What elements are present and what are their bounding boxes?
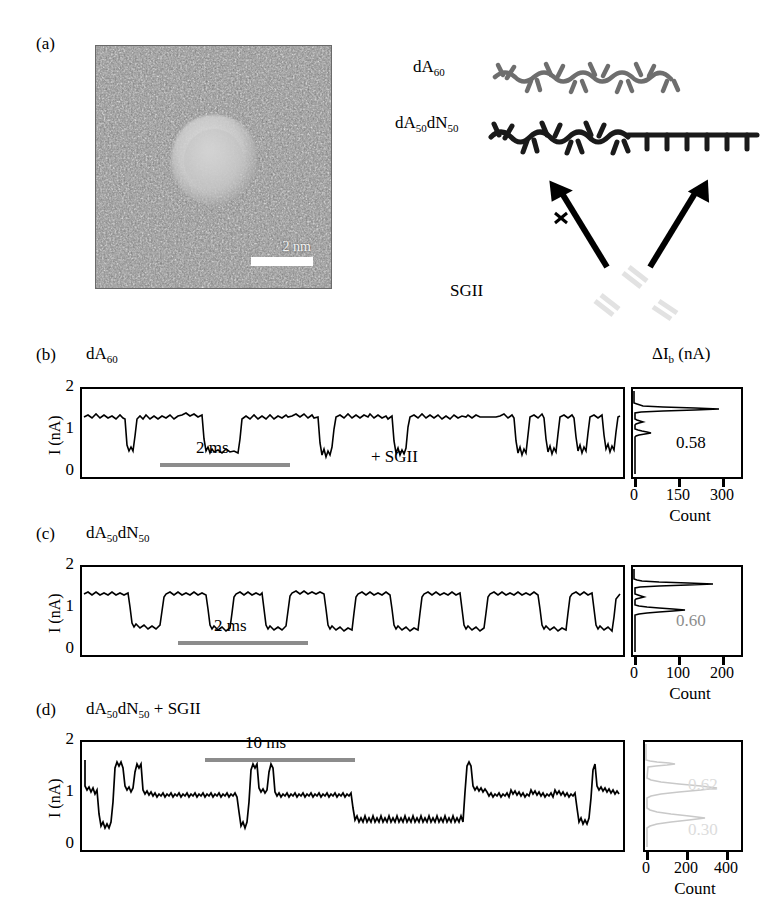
- panel-a-letter: (a): [36, 34, 55, 54]
- panel-d-xtick-400: 400: [708, 859, 744, 877]
- panel-d-xtick-200: 200: [668, 859, 704, 877]
- panel-b-xtick-150: 150: [660, 486, 696, 504]
- panel-b-scalebar: [160, 463, 290, 467]
- panel-b-ytick-0: 0: [56, 460, 74, 480]
- panel-b-scalebar-label: 2 ms: [196, 438, 229, 458]
- tem-micrograph: 2 nm: [95, 45, 332, 289]
- panel-c-hist-value: 0.60: [676, 611, 706, 631]
- panel-c-title-a-sub: 50: [107, 532, 118, 544]
- sgii-protein-icon: [595, 267, 677, 319]
- panel-d-letter: (d): [36, 700, 56, 720]
- schematic-diagram: dA60 dA50dN50 SGII: [395, 45, 777, 335]
- panel-c-xtick-200: 200: [704, 664, 740, 682]
- panel-c-xtick-100: 100: [660, 664, 696, 682]
- panel-d-scalebar: [205, 758, 355, 762]
- arrow-cross-icon: [555, 213, 567, 223]
- panel-b-hist-axis-title: ΔIb (nA): [652, 344, 710, 365]
- panel-d-ytick-0: 0: [56, 833, 74, 853]
- panel-d-title-b-sub: 50: [139, 708, 150, 720]
- schematic-svg: [395, 45, 777, 335]
- panel-c-title: dA50dN50: [86, 523, 150, 544]
- panel-c-xtick-0: 0: [622, 664, 646, 682]
- panel-c-scalebar-label: 2 ms: [214, 616, 247, 636]
- delta-ib-unit: (nA): [674, 344, 710, 363]
- panel-b-title: dA60: [86, 344, 118, 365]
- panel-c-ytick-2: 2: [56, 554, 74, 574]
- panel-d-ytick-1: 1: [56, 781, 74, 801]
- panel-c-count-label: Count: [645, 684, 735, 704]
- panel-b-hist-value: 0.58: [676, 433, 706, 453]
- arrow-left-icon: [542, 173, 607, 267]
- panel-d-hist-value-top: 0.62: [688, 775, 718, 795]
- panel-d-trace-plot: [80, 740, 625, 852]
- panel-b-xtick-300: 300: [704, 486, 740, 504]
- panel-c-trace-plot: [80, 565, 625, 657]
- panel-d-hist-value-bottom: 0.30: [688, 820, 718, 840]
- nanopore-core: [184, 129, 244, 191]
- panel-c-scalebar: [178, 641, 308, 645]
- panel-d-title-a-sub: 50: [107, 708, 118, 720]
- panel-b-title-sub: 60: [107, 353, 118, 365]
- delta-ib-symbol: ΔI: [652, 344, 669, 363]
- scalebar-bar: [251, 257, 313, 266]
- arrow-right-icon: [650, 174, 718, 267]
- panel-c-title-a: dA: [86, 523, 107, 542]
- panel-c-title-b: dN: [118, 523, 139, 542]
- panel-d-xtick-0: 0: [634, 859, 658, 877]
- strand-da60-icon: [495, 64, 678, 92]
- panel-d-count-label: Count: [650, 879, 740, 899]
- panel-b-ytick-1: 1: [56, 418, 74, 438]
- panel-c-ytick-0: 0: [56, 638, 74, 658]
- panel-d-title-suffix: + SGII: [150, 699, 201, 718]
- panel-b-xtick-0: 0: [622, 486, 646, 504]
- panel-b-ytick-2: 2: [56, 376, 74, 396]
- figure-canvas: (a) 2 nm dA60 dA50dN50 SGII: [0, 0, 777, 907]
- panel-c-ytick-1: 1: [56, 596, 74, 616]
- panel-b-title-main: dA: [86, 344, 107, 363]
- panel-d-title-b: dN: [118, 699, 139, 718]
- panel-c-title-b-sub: 50: [139, 532, 150, 544]
- panel-d-scalebar-label: 10 ms: [245, 733, 286, 753]
- panel-d-ytick-2: 2: [56, 729, 74, 749]
- panel-b-sgii-annotation: + SGII: [371, 447, 418, 467]
- panel-d-title: dA50dN50 + SGII: [86, 699, 201, 720]
- scalebar-label: 2 nm: [283, 239, 311, 255]
- panel-d-title-a: dA: [86, 699, 107, 718]
- panel-b-count-label: Count: [645, 506, 735, 526]
- panel-b-letter: (b): [36, 345, 56, 365]
- strand-da50dn50-icon: [491, 123, 757, 153]
- panel-c-letter: (c): [36, 524, 55, 544]
- panel-c-trace-line: [82, 567, 622, 654]
